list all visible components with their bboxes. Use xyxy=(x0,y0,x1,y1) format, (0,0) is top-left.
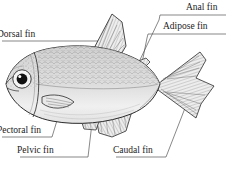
label-pectoral-fin: Pectoral fin xyxy=(0,126,41,136)
label-adipose-fin: Adipose fin xyxy=(163,22,208,32)
label-pelvic-fin: Pelvic fin xyxy=(17,146,54,156)
label-dorsal-fin: Dorsal fin xyxy=(0,30,35,40)
fish-anatomy-figure: ············ ······· ········· ·········… xyxy=(0,0,228,169)
caudal-fin xyxy=(158,52,214,118)
label-caudal-fin: Caudal fin xyxy=(113,146,153,156)
fish-eye xyxy=(13,70,31,88)
label-anal-fin: Anal fin xyxy=(186,3,217,13)
